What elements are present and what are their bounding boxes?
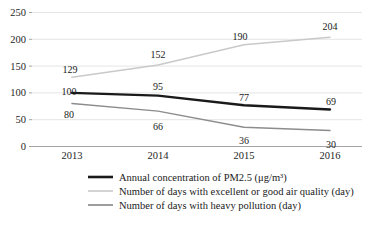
data-label-good-air-2014: 152 xyxy=(151,49,166,60)
legend: Annual concentration of PM2.5 (μg/m³) Nu… xyxy=(88,172,354,212)
data-labels-good-air: 129 152 190 204 xyxy=(63,21,338,75)
gridlines xyxy=(32,13,362,120)
y-tick-label-200: 200 xyxy=(10,34,26,45)
y-tick-label-50: 50 xyxy=(16,114,27,125)
chart-canvas: 250 200 150 100 50 0 2013 2014 2015 2016… xyxy=(0,0,371,226)
data-label-heavy-2014: 66 xyxy=(153,121,163,132)
x-tick-label-2013: 2013 xyxy=(62,150,83,161)
legend-label-good-air: Number of days with excellent or good ai… xyxy=(119,186,354,198)
legend-item-heavy-pollution[interactable]: Number of days with heavy pollution (day… xyxy=(88,200,301,212)
data-label-good-air-2013: 129 xyxy=(63,64,78,75)
y-axis-ticks xyxy=(29,13,32,147)
y-tick-label-100: 100 xyxy=(10,87,26,98)
data-label-pm25-2016: 69 xyxy=(326,96,336,107)
data-label-good-air-2015: 190 xyxy=(233,31,248,42)
legend-item-pm25[interactable]: Annual concentration of PM2.5 (μg/m³) xyxy=(88,172,287,184)
data-label-pm25-2015: 77 xyxy=(239,92,249,103)
data-label-good-air-2016: 204 xyxy=(323,21,338,32)
y-tick-label-150: 150 xyxy=(10,61,26,72)
y-tick-label-0: 0 xyxy=(21,141,26,152)
x-tick-label-2015: 2015 xyxy=(234,150,255,161)
series-lines xyxy=(72,37,330,130)
series-line-good-air xyxy=(72,37,330,77)
legend-label-pm25: Annual concentration of PM2.5 (μg/m³) xyxy=(119,172,287,184)
data-label-pm25-2013: 100 xyxy=(62,86,77,97)
x-axis-labels: 2013 2014 2015 2016 xyxy=(62,150,341,161)
y-axis-labels: 250 200 150 100 50 0 xyxy=(10,7,26,152)
line-chart: 250 200 150 100 50 0 2013 2014 2015 2016… xyxy=(0,0,371,226)
data-label-heavy-2015: 36 xyxy=(239,135,249,146)
data-label-heavy-2013: 80 xyxy=(64,109,74,120)
data-label-pm25-2014: 95 xyxy=(153,81,163,92)
x-tick-label-2014: 2014 xyxy=(148,150,170,161)
y-tick-label-250: 250 xyxy=(10,7,26,18)
x-tick-label-2016: 2016 xyxy=(320,150,341,161)
legend-label-heavy-pollution: Number of days with heavy pollution (day… xyxy=(119,200,301,212)
data-label-heavy-2016: 30 xyxy=(326,139,336,150)
legend-item-good-air[interactable]: Number of days with excellent or good ai… xyxy=(88,186,354,198)
